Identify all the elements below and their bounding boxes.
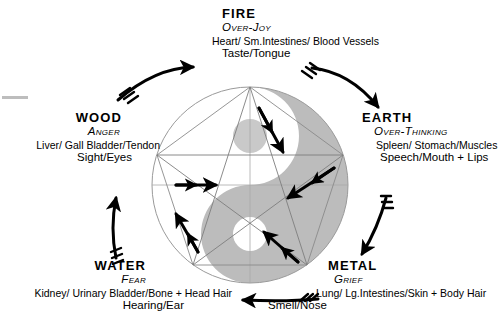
- element-organs-fire: Heart/ Sm.Intestines/ Blood Vessels: [212, 35, 379, 47]
- element-emotion-earth: Over-Thinking: [374, 125, 497, 139]
- diagram-canvas: FIRE Over-Joy Heart/ Sm.Intestines/ Bloo…: [0, 0, 499, 331]
- element-emotion-metal: Grief: [334, 273, 486, 287]
- element-name-metal: METAL: [328, 258, 486, 273]
- element-sense-metal: Smell/Nose: [268, 299, 486, 313]
- element-block-metal: METAL Grief Lung/ Lg.Intestines/Skin + B…: [300, 258, 486, 313]
- element-organs-water: Kidney/ Urinary Bladder/Bone + Head Hair: [6, 287, 232, 299]
- element-emotion-water: Fear: [6, 273, 146, 287]
- element-emotion-fire: Over-Joy: [222, 21, 379, 35]
- element-organs-earth: Spleen/ Stomach/Muscles: [376, 139, 497, 151]
- element-sense-water: Hearing/Ear: [6, 299, 184, 313]
- element-block-water: WATER Fear Kidney/ Urinary Bladder/Bone …: [6, 258, 232, 313]
- element-sense-fire: Taste/Tongue: [222, 47, 379, 61]
- element-block-earth: EARTH Over-Thinking Spleen/ Stomach/Musc…: [362, 110, 497, 165]
- element-block-wood: WOOD Anger Liver/ Gall Bladder/Tendon Si…: [8, 110, 160, 165]
- element-organs-wood: Liver/ Gall Bladder/Tendon: [8, 139, 160, 151]
- element-name-fire: FIRE: [222, 6, 379, 21]
- element-name-water: WATER: [6, 258, 146, 273]
- element-name-earth: EARTH: [362, 110, 497, 125]
- element-sense-wood: Sight/Eyes: [8, 151, 132, 165]
- element-sense-earth: Speech/Mouth + Lips: [380, 151, 497, 165]
- element-block-fire: FIRE Over-Joy Heart/ Sm.Intestines/ Bloo…: [212, 6, 379, 61]
- element-organs-metal: Lung/ Lg.Intestines/Skin + Body Hair: [316, 287, 486, 299]
- fletch-fire-earth: [302, 63, 320, 78]
- element-name-wood: WOOD: [8, 110, 122, 125]
- arrow-earth-metal: [362, 198, 386, 254]
- element-emotion-wood: Anger: [8, 125, 120, 139]
- arrow-fire-earth: [312, 68, 378, 107]
